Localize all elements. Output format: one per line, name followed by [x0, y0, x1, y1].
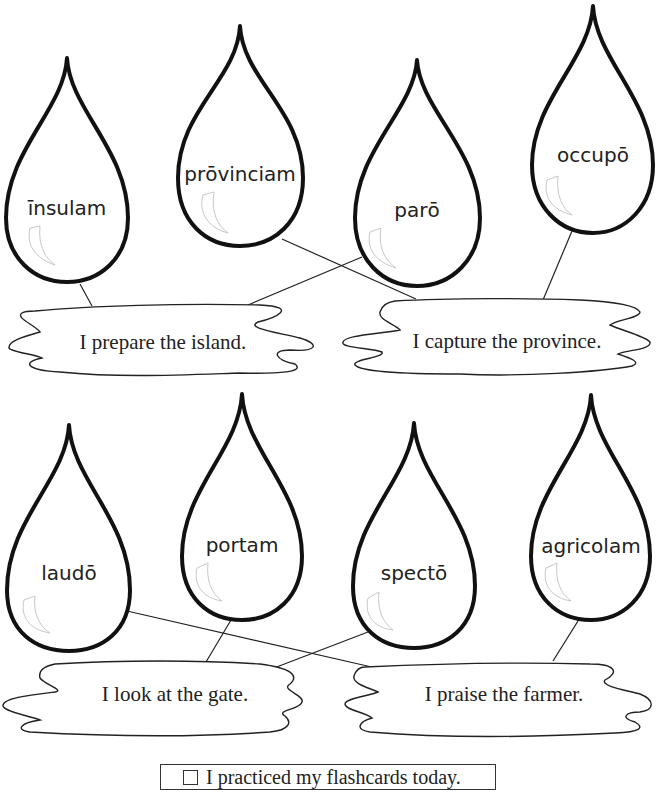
drop-specto: spectō: [353, 423, 475, 648]
practice-checkbox[interactable]: [183, 770, 198, 785]
drop-agricolam: agricolam: [531, 395, 650, 620]
cloud-sentence-2: I capture the province.: [343, 299, 650, 375]
drop-paro: parō: [355, 60, 480, 286]
line-agricolam: [553, 621, 578, 661]
drop-insulam: īnsulam: [6, 58, 128, 282]
drop-word: īnsulam: [27, 196, 107, 220]
cloud-sentence-1: I prepare the island.: [9, 304, 313, 375]
drop-word: parō: [394, 198, 439, 222]
practice-label: I practiced my flashcards today.: [206, 766, 461, 789]
sentence-text: I praise the farmer.: [425, 682, 584, 706]
sentence-text: I prepare the island.: [80, 330, 247, 354]
line-portam: [206, 620, 231, 662]
drop-word: occupō: [557, 143, 629, 167]
drop-laudo: laudō: [7, 425, 130, 651]
drop-word: agricolam: [541, 534, 640, 558]
sentence-text: I capture the province.: [413, 329, 602, 353]
match-lines: [80, 231, 578, 668]
line-paro: [248, 257, 362, 305]
drop-occupo: occupō: [532, 6, 653, 233]
line-occupo: [543, 231, 572, 300]
drop-word: spectō: [381, 561, 448, 585]
line-insulam: [80, 284, 92, 306]
drop-word: portam: [206, 533, 279, 557]
drop-provinciam: prōvinciam: [178, 26, 303, 246]
sentence-text: I look at the gate.: [102, 682, 248, 706]
cloud-sentence-4: I praise the farmer.: [345, 663, 651, 736]
drop-word: prōvinciam: [184, 162, 296, 186]
drop-word: laudō: [41, 561, 96, 585]
flashcard-practice-box: I practiced my flashcards today.: [160, 764, 496, 790]
drop-portam: portam: [182, 394, 302, 620]
worksheet-canvas: īnsulam prōvinciam parō occupō laudō por…: [0, 0, 664, 797]
cloud-sentence-3: I look at the gate.: [3, 661, 302, 736]
